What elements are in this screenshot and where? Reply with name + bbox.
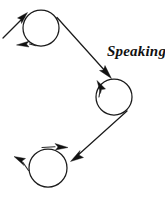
bottom-loop-top-arrowhead-icon bbox=[55, 144, 68, 151]
middle-loop-circle bbox=[96, 79, 132, 115]
top-loop-circle bbox=[23, 10, 59, 46]
bottom-loop-top-arrow-tail bbox=[42, 147, 55, 148]
middle-bottom-line bbox=[77, 111, 127, 156]
middle-loop-arrow-tail bbox=[99, 91, 100, 98]
top-middle-line bbox=[57, 18, 106, 73]
bottom-loop-left-arrow-tail bbox=[23, 163, 29, 171]
speaking-label: Speaking bbox=[107, 44, 165, 59]
diagram-svg bbox=[0, 0, 165, 198]
top-loop-arrowhead-icon bbox=[17, 41, 30, 47]
arrow-top-loop-to-middle-loop bbox=[57, 18, 112, 79]
bottom-loop bbox=[14, 144, 68, 188]
arrow-middle-loop-to-bottom-loop bbox=[71, 111, 128, 162]
bottom-loop-circle bbox=[29, 149, 67, 187]
diagram-canvas: Speaking bbox=[0, 0, 165, 198]
entry-arrow-line bbox=[3, 17, 24, 38]
middle-loop bbox=[96, 79, 132, 115]
